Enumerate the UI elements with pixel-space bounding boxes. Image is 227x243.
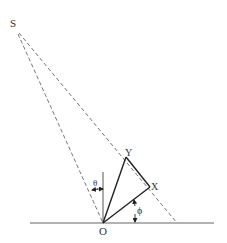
label-phi: ϕ (137, 205, 142, 216)
dashed-ray-s-through-y-x (19, 33, 177, 223)
segment-o-x (103, 187, 150, 223)
label-s: S (10, 17, 16, 29)
phi-arrow-up (134, 200, 135, 206)
segment-y-x (126, 157, 150, 187)
geometry-diagram: S Y X O θ ϕ (0, 0, 227, 243)
label-y: Y (125, 147, 132, 158)
dashed-ray-s-to-o (18, 34, 103, 223)
segment-o-y (103, 157, 126, 223)
label-theta: θ (93, 178, 97, 188)
label-o: O (99, 225, 107, 237)
label-x: X (151, 181, 159, 192)
